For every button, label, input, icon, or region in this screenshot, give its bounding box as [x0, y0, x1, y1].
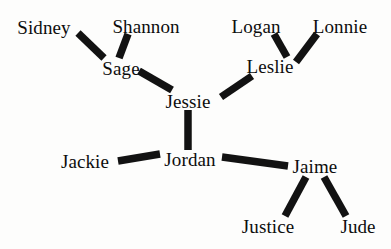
node-label-sage: Sage [102, 59, 139, 78]
node-label-leslie: Leslie [246, 57, 293, 76]
edge-jaime-jude [324, 177, 346, 216]
node-label-jackie: Jackie [61, 152, 109, 171]
node-label-justice: Justice [242, 217, 294, 236]
edge-lonnie-leslie [296, 34, 317, 62]
node-label-jude: Jude [340, 217, 375, 236]
edge-shannon-sage [119, 34, 128, 58]
node-label-sidney: Sidney [17, 18, 70, 37]
node-label-jessie: Jessie [166, 92, 211, 111]
edge-jackie-jordan [118, 154, 160, 161]
edge-sidney-sage [78, 33, 104, 58]
edge-leslie-jessie [221, 76, 252, 97]
node-label-logan: Logan [231, 17, 280, 36]
node-label-jordan: Jordan [164, 150, 215, 169]
node-label-lonnie: Lonnie [313, 17, 367, 36]
node-label-shannon: Shannon [112, 17, 179, 36]
edge-sage-jessie [139, 71, 172, 90]
node-label-jaime: Jaime [293, 157, 338, 176]
edge-logan-leslie [274, 34, 287, 57]
edge-jaime-justice [285, 177, 306, 216]
network-diagram: SidneyShannonLoganLonnieSageLeslieJessie… [0, 0, 391, 249]
edge-jordan-jaime [222, 157, 288, 166]
